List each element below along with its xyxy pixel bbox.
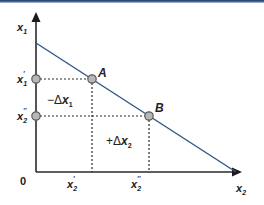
- tradeoff-diagram: x1 x2 0 x1' x2'' x2' x2'' A B −Δx1 +Δx2: [0, 0, 264, 205]
- y-tick-x1-prime: x1': [16, 70, 27, 87]
- y-tick-x2-double-prime: x2'': [16, 107, 27, 124]
- point-b: [145, 112, 153, 120]
- y-marker-x1-prime: [32, 75, 40, 83]
- point-a-label: A: [97, 66, 107, 80]
- tradeoff-line: [36, 43, 236, 172]
- plus-delta-x2-label: +Δx2: [106, 134, 132, 149]
- point-b-label: B: [155, 101, 164, 115]
- minus-delta-x1-label: −Δx1: [47, 93, 73, 108]
- x-axis-label: x2: [235, 182, 246, 196]
- x-tick-x2-double-prime: x2'': [130, 175, 141, 192]
- y-axis-arrow-icon: [32, 12, 41, 22]
- y-marker-x2-double-prime: [32, 112, 40, 120]
- y-axis-label: x1: [16, 21, 27, 35]
- x-axis-arrow-icon: [232, 168, 242, 177]
- x-tick-x2-prime: x2': [66, 175, 77, 192]
- point-a: [88, 75, 96, 83]
- origin-label: 0: [20, 175, 26, 187]
